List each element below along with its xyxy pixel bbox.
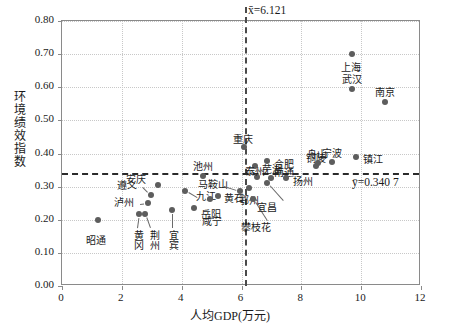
x-tick-label: 6 <box>226 291 256 303</box>
x-tick-label: 2 <box>106 291 136 303</box>
y-tick-label: 0.10 <box>8 245 54 257</box>
data-point-label: 扬州 <box>293 177 313 188</box>
y-tick-mark <box>58 187 62 188</box>
data-point <box>182 188 188 194</box>
data-point-label: 南京 <box>375 88 395 99</box>
y-tick-mark <box>58 21 62 22</box>
data-point-label: 安庆 <box>126 175 146 186</box>
gridline-vertical <box>182 21 183 284</box>
y-tick-mark <box>58 87 62 88</box>
label-leader-line <box>140 204 144 205</box>
data-point <box>382 99 388 105</box>
label-leader-line <box>142 187 148 193</box>
data-point <box>349 86 355 92</box>
y-tick-mark <box>58 253 62 254</box>
x-tick-mark <box>182 286 183 290</box>
x-tick-mark <box>301 286 302 290</box>
data-point <box>148 192 154 198</box>
data-point-label: 泸州 <box>114 198 134 209</box>
data-point-label: 宁波 <box>322 149 342 160</box>
gridline-horizontal <box>62 87 419 88</box>
data-point <box>169 207 175 213</box>
plot-area: 昭通黄冈荆州泸州遵义安庆宜宾九江咸宁池州岳阳黄石马鞍山重庆鄂州攀枝花芜湖泰州合肥… <box>61 20 420 285</box>
y-tick-label: 0.20 <box>8 212 54 224</box>
data-point <box>353 154 359 160</box>
label-leader-line <box>172 214 173 228</box>
y-tick-label: 0.70 <box>8 46 54 58</box>
data-point-label: 镇江 <box>363 155 383 166</box>
gridline-horizontal <box>62 220 419 221</box>
y-mean-label: ȳ=0.340 7 <box>352 176 399 188</box>
data-point-label: 黄冈 <box>132 230 143 250</box>
data-point-label: 岳阳 <box>201 210 221 221</box>
y-tick-label: 0.30 <box>8 179 54 191</box>
data-point <box>191 205 197 211</box>
data-point-label: 宜昌 <box>257 203 277 214</box>
x-tick-label: 8 <box>285 291 315 303</box>
data-point-label: 武汉 <box>342 75 362 86</box>
data-point <box>283 175 289 181</box>
mean-line-horizontal <box>62 173 419 175</box>
gridline-vertical <box>242 21 243 284</box>
y-tick-label: 0.40 <box>8 146 54 158</box>
data-point-label: 攀枝花 <box>241 223 271 234</box>
data-point <box>95 217 101 223</box>
data-point <box>264 158 270 164</box>
data-point-label: 昭通 <box>86 236 106 247</box>
data-point-label: 泰州 <box>245 167 265 178</box>
gridline-vertical <box>122 21 123 284</box>
data-point <box>315 160 321 166</box>
y-tick-mark <box>58 120 62 121</box>
y-tick-label: 0.80 <box>8 13 54 25</box>
data-point-label: 荆州 <box>148 230 159 250</box>
x-tick-mark <box>242 286 243 290</box>
gridline-horizontal <box>62 21 419 22</box>
data-point-label: 上海 <box>341 63 361 74</box>
data-point <box>349 51 355 57</box>
data-point-label: 宜宾 <box>167 230 178 250</box>
gridline-horizontal <box>62 120 419 121</box>
data-point <box>329 159 335 165</box>
y-tick-label: 0.50 <box>8 112 54 124</box>
x-tick-mark <box>122 286 123 290</box>
y-tick-mark <box>58 54 62 55</box>
gridline-vertical <box>361 21 362 284</box>
x-mean-label: x̄=6.121 <box>248 4 286 16</box>
x-tick-label: 12 <box>405 291 435 303</box>
x-tick-mark <box>361 286 362 290</box>
y-tick-label: 0.00 <box>8 278 54 290</box>
gridline-horizontal <box>62 253 419 254</box>
y-tick-mark <box>58 220 62 221</box>
data-point-label: 池州 <box>193 162 213 173</box>
gridline-horizontal <box>62 54 419 55</box>
data-point <box>215 193 221 199</box>
data-point-label: 重庆 <box>233 135 253 146</box>
data-point <box>246 185 252 191</box>
x-tick-mark <box>62 286 63 290</box>
x-axis-title: 人均GDP(万元) <box>0 306 460 324</box>
data-point <box>145 200 151 206</box>
gridline-vertical <box>301 21 302 284</box>
x-tick-label: 4 <box>166 291 196 303</box>
label-leader-line <box>270 186 284 202</box>
scatter-chart: 环境绩效指数 昭通黄冈荆州泸州遵义安庆宜宾九江咸宁池州岳阳黄石马鞍山重庆鄂州攀枝… <box>0 0 460 331</box>
y-tick-label: 0.60 <box>8 79 54 91</box>
data-point <box>237 188 243 194</box>
x-tick-label: 10 <box>345 291 375 303</box>
x-tick-label: 0 <box>46 291 76 303</box>
y-tick-mark <box>58 154 62 155</box>
x-tick-mark <box>421 286 422 290</box>
